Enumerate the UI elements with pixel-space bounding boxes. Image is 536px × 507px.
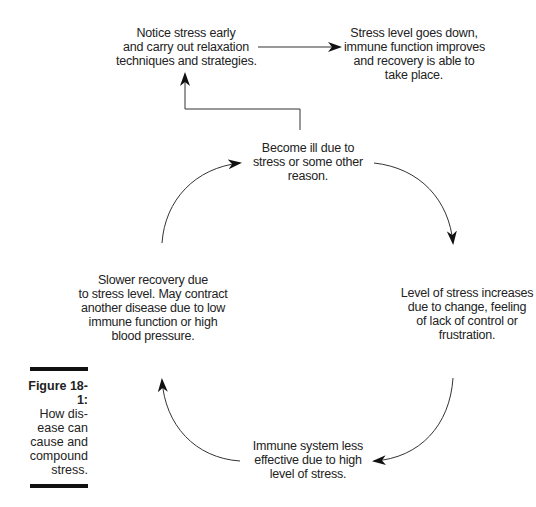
arrow-ill-to-stress: [374, 163, 453, 243]
node-slower-recovery: Slower recovery due to stress level. May…: [78, 273, 228, 343]
node-recovery: Stress level goes down, immune function …: [344, 26, 484, 82]
figure-caption: Figure 18-1: How dis- ease can cause and…: [26, 367, 88, 488]
arrow-stress-to-immune: [374, 378, 453, 461]
caption-top-bar: [30, 367, 88, 371]
node-become-ill: Become ill due to stress or some other r…: [248, 141, 368, 183]
node-notice-stress: Notice stress early and carry out relaxa…: [116, 26, 256, 68]
caption-bottom-bar: [30, 484, 88, 488]
figure-description: How dis- ease can cause and compound str…: [26, 407, 88, 477]
figure-label: Figure 18-1:: [26, 379, 88, 407]
arrow-immune-to-slower: [162, 380, 240, 461]
node-stress-increases: Level of stress increases due to change,…: [392, 286, 536, 342]
arrow-slower-to-ill: [162, 163, 240, 243]
arrow-ill-to-notice: [185, 74, 300, 130]
node-immune-less-effective: Immune system less effective due to high…: [252, 439, 364, 481]
